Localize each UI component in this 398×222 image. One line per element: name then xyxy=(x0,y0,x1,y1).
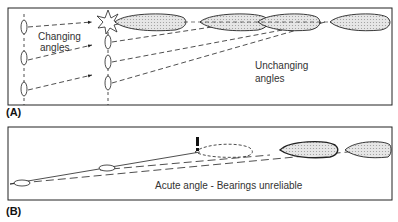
panel-label-a: (A) xyxy=(6,106,21,118)
panel-label-b: (B) xyxy=(6,205,21,217)
annotation-unchanging: Unchanging xyxy=(255,60,308,71)
collision-bearing-diagram: Changing angles Unchanging angles Acute … xyxy=(0,0,398,222)
annotation-angles-2: angles xyxy=(255,73,284,84)
annotation-angles-1: angles xyxy=(40,42,69,53)
annotation-changing: Changing xyxy=(38,31,81,42)
panel-b: Acute angle - Bearings unreliable xyxy=(8,127,392,200)
panel-a: Changing angles Unchanging angles xyxy=(8,8,392,105)
annotation-acute-angle: Acute angle - Bearings unreliable xyxy=(155,180,303,191)
